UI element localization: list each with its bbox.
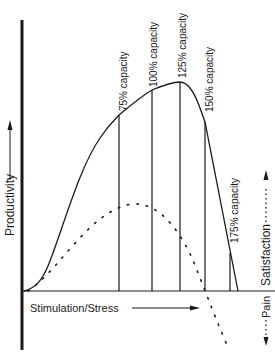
satisfaction-arrowhead-icon — [264, 170, 269, 180]
stress-productivity-diagram: 75% capacity 100% capacity 125% capacity… — [0, 0, 275, 357]
pain-arrowhead-icon — [264, 337, 269, 346]
capacity-label-100: 100% capacity — [148, 22, 159, 87]
satisfaction-label: Satisfaction — [259, 224, 273, 286]
capacity-label-175: 175% capacity — [229, 178, 240, 243]
capacity-label-75: 75% capacity — [118, 52, 129, 111]
y-axis-label: Productivity — [3, 174, 17, 236]
productivity-curve — [24, 82, 238, 291]
x-axis-arrowhead-icon — [190, 306, 200, 311]
satisfaction-curve — [28, 204, 227, 345]
pain-label: Pain — [260, 296, 272, 318]
y-axis-arrowhead-icon — [8, 120, 13, 130]
x-axis-label: Stimulation/Stress — [30, 302, 119, 314]
capacity-label-125: 125% capacity — [177, 13, 188, 78]
capacity-label-150: 150% capacity — [204, 47, 215, 112]
